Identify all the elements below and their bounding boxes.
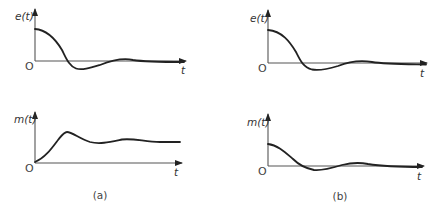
y-axis-label: e(t) bbox=[15, 10, 34, 22]
y-axis-label: m(t) bbox=[247, 116, 270, 128]
panel-b-error-plot: e(t) t O bbox=[250, 10, 427, 79]
origin-label: O bbox=[25, 162, 34, 175]
origin-label: O bbox=[258, 165, 267, 178]
y-axis-label: m(t) bbox=[14, 113, 37, 125]
x-axis-label: t bbox=[174, 166, 179, 178]
panel-b-manipulated-plot: m(t) t O bbox=[247, 114, 424, 182]
panel-a-error-plot: e(t) t O bbox=[15, 9, 186, 76]
caption-a: (a) bbox=[93, 189, 108, 201]
error-curve bbox=[268, 30, 426, 70]
error-curve bbox=[35, 29, 184, 69]
x-axis-label: t bbox=[181, 64, 186, 76]
figure-canvas: e(t) t O m(t) t O (a) e(t) t O m(t) t O … bbox=[0, 0, 436, 212]
y-axis-label: e(t) bbox=[250, 12, 269, 24]
manipulated-curve bbox=[35, 132, 180, 162]
x-axis-label: t bbox=[417, 170, 422, 182]
x-axis-label: t bbox=[420, 67, 425, 79]
caption-b: (b) bbox=[333, 190, 348, 202]
panel-a-manipulated-plot: m(t) t O bbox=[14, 112, 182, 178]
origin-label: O bbox=[258, 62, 267, 75]
origin-label: O bbox=[25, 60, 34, 73]
